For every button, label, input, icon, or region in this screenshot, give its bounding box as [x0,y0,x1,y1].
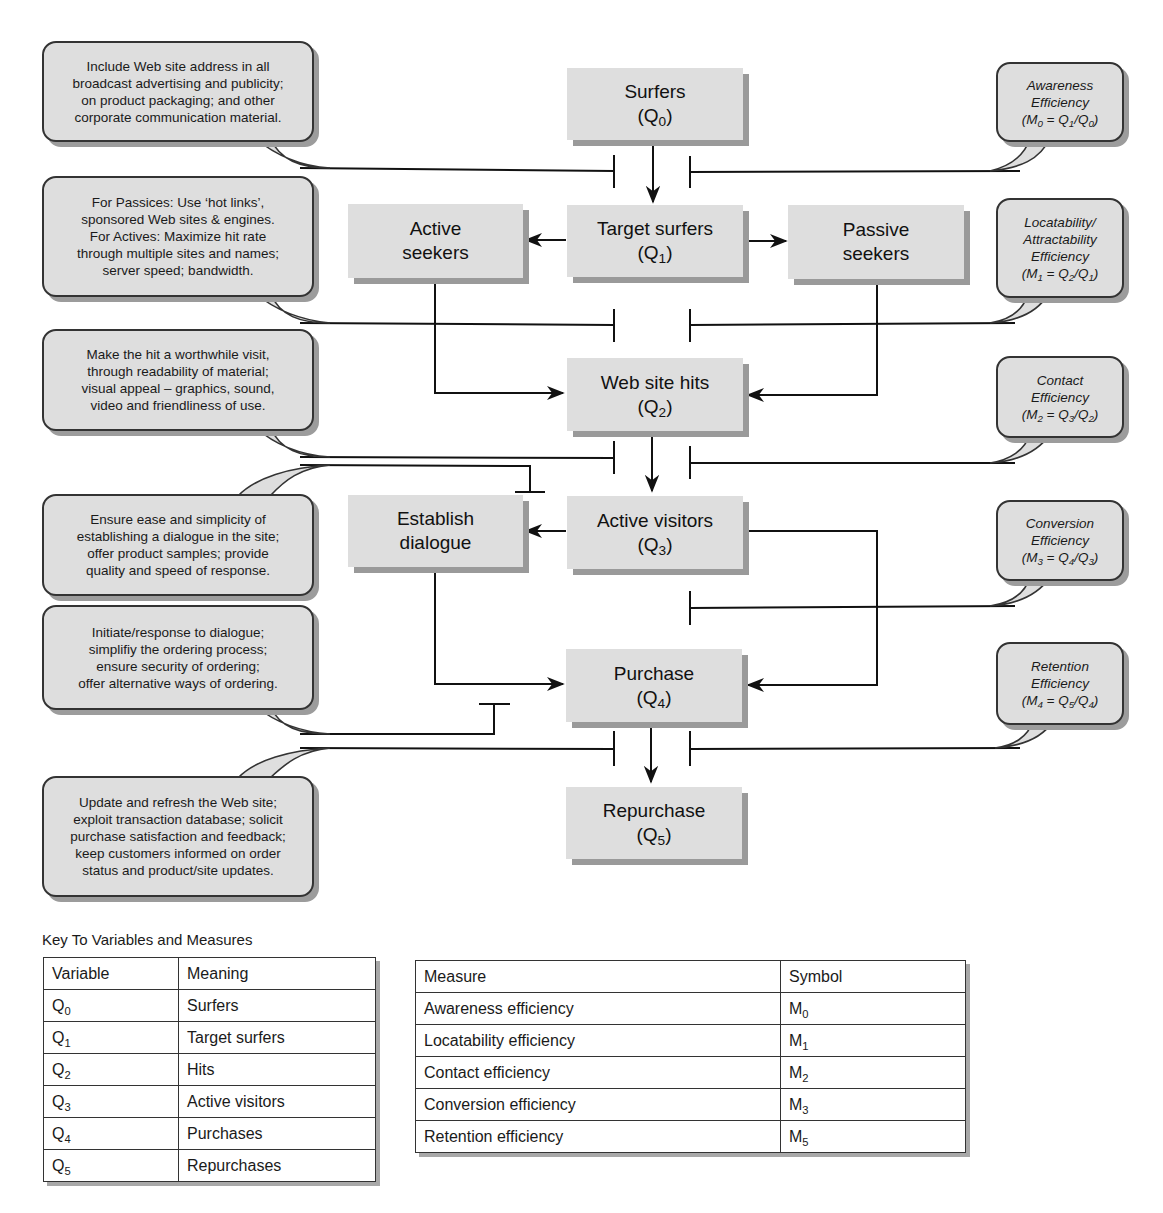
node-variable: (Q3) [637,533,672,557]
callout-retention-action: Update and refresh the Web site; exploit… [42,776,314,897]
callout-line: Include Web site address in all [73,58,284,75]
meaning-cell: Surfers [179,990,376,1022]
callout-line: Efficiency [1022,389,1099,406]
callout-line: Locatability/ [1022,214,1099,231]
callout-line: corporate communication material. [73,109,284,126]
node-variable: (Q4) [636,686,671,710]
callout-retention-efficiency: Retention Efficiency (M4 = Q5/Q4) [996,642,1124,725]
callout-line: establishing a dialogue in the site; [77,528,280,545]
table-row: Retention efficiency M5 [416,1121,966,1153]
meaning-cell: Repurchases [179,1150,376,1182]
variable-cell: Q2 [44,1054,179,1086]
callout-line: Efficiency [1022,532,1099,549]
variable-cell: Q3 [44,1086,179,1118]
node-label: Establish [397,507,474,531]
variable-cell: Q0 [44,990,179,1022]
header-measure: Measure [416,961,781,993]
callout-line: Efficiency [1022,248,1099,265]
table-row: Contact efficiency M2 [416,1057,966,1089]
callout-line: offer alternative ways of ordering. [78,675,277,692]
callout-line: status and product/site updates. [70,862,285,879]
callout-line: keep customers informed on order [70,845,285,862]
node-variable: (Q0) [637,104,672,128]
node-active-seekers: Active seekers [348,204,523,278]
arrow-dialogue-to-purchase [435,567,563,684]
callout-line: Ensure ease and simplicity of [77,511,280,528]
callout-locatability-efficiency: Locatability/ Attractability Efficiency … [996,198,1124,298]
symbol-cell: M0 [781,993,966,1025]
callout-locatability-action: For Passices: Use ‘hot links’, sponsored… [42,176,314,297]
node-establish-dialogue: Establish dialogue [348,495,523,567]
callout-contact-action: Make the hit a worthwhile visit, through… [42,329,314,431]
callout-line: Contact [1022,372,1099,389]
callout-purchase-action: Initiate/response to dialogue; simplifiy… [42,605,314,710]
callout-awareness-action: Include Web site address in all broadcas… [42,41,314,142]
callout-line: visual appeal – graphics, sound, [82,380,275,397]
arrow-passive-to-hits [748,278,877,395]
callout-line: Make the hit a worthwhile visit, [82,346,275,363]
callout-conversion-action: Ensure ease and simplicity of establishi… [42,494,314,596]
symbol-cell: M1 [781,1025,966,1057]
callout-line: Retention [1022,658,1099,675]
node-web-site-hits: Web site hits (Q2) [567,358,743,431]
callout-line: server speed; bandwidth. [77,262,279,279]
node-label: Active visitors [597,509,713,533]
variables-table: Variable Meaning Q0 Surfers Q1 Target su… [43,957,376,1182]
callout-line: offer product samples; provide [77,545,280,562]
callout-line: video and friendliness of use. [82,397,275,414]
node-label-line2: seekers [402,241,469,265]
symbol-cell: M3 [781,1089,966,1121]
variable-cell: Q4 [44,1118,179,1150]
table-row: Q5 Repurchases [44,1150,376,1182]
arrow-active-to-hits [435,278,563,393]
node-label: Purchase [614,662,694,686]
callout-line: purchase satisfaction and feedback; [70,828,285,845]
node-label: Passive [843,218,910,242]
node-variable: (Q2) [637,395,672,419]
efficiency-formula: (M2 = Q3/Q2) [1022,406,1099,423]
meaning-cell: Target surfers [179,1022,376,1054]
node-repurchase: Repurchase (Q5) [566,787,742,859]
callout-line: ensure security of ordering; [78,658,277,675]
meaning-cell: Hits [179,1054,376,1086]
header-symbol: Symbol [781,961,966,993]
header-variable: Variable [44,958,179,990]
measure-cell: Conversion efficiency [416,1089,781,1121]
node-label: Active [410,217,462,241]
callout-line: Awareness [1022,77,1099,94]
callout-line: through readability of material; [82,363,275,380]
table-row: Conversion efficiency M3 [416,1089,966,1121]
callout-line: For Actives: Maximize hit rate [77,228,279,245]
efficiency-formula: (M4 = Q5/Q4) [1022,692,1099,709]
node-passive-seekers: Passive seekers [788,205,964,279]
node-surfers: Surfers (Q0) [567,68,743,140]
measures-table: Measure Symbol Awareness efficiency M0 L… [415,960,966,1153]
table-row: Q4 Purchases [44,1118,376,1150]
table-header-row: Variable Meaning [44,958,376,990]
variable-cell: Q1 [44,1022,179,1054]
efficiency-formula: (M0 = Q1/Q0) [1022,111,1099,128]
node-variable: (Q5) [636,823,671,847]
callout-line: on product packaging; and other [73,92,284,109]
callout-conversion-efficiency: Conversion Efficiency (M3 = Q4/Q3) [996,500,1124,581]
meaning-cell: Active visitors [179,1086,376,1118]
measure-cell: Contact efficiency [416,1057,781,1089]
callout-line: Efficiency [1022,94,1099,111]
table-row: Q3 Active visitors [44,1086,376,1118]
variable-cell: Q5 [44,1150,179,1182]
callout-line: Conversion [1022,515,1099,532]
callout-line: exploit transaction database; solicit [70,811,285,828]
header-meaning: Meaning [179,958,376,990]
symbol-cell: M2 [781,1057,966,1089]
table-row: Q1 Target surfers [44,1022,376,1054]
table-header-row: Measure Symbol [416,961,966,993]
table-row: Q0 Surfers [44,990,376,1022]
node-label: Repurchase [603,799,705,823]
callout-line: quality and speed of response. [77,562,280,579]
table-row: Locatability efficiency M1 [416,1025,966,1057]
measure-cell: Locatability efficiency [416,1025,781,1057]
node-label: Web site hits [601,371,709,395]
node-active-visitors: Active visitors (Q3) [567,496,743,569]
callout-line: Efficiency [1022,675,1099,692]
efficiency-formula: (M3 = Q4/Q3) [1022,549,1099,566]
